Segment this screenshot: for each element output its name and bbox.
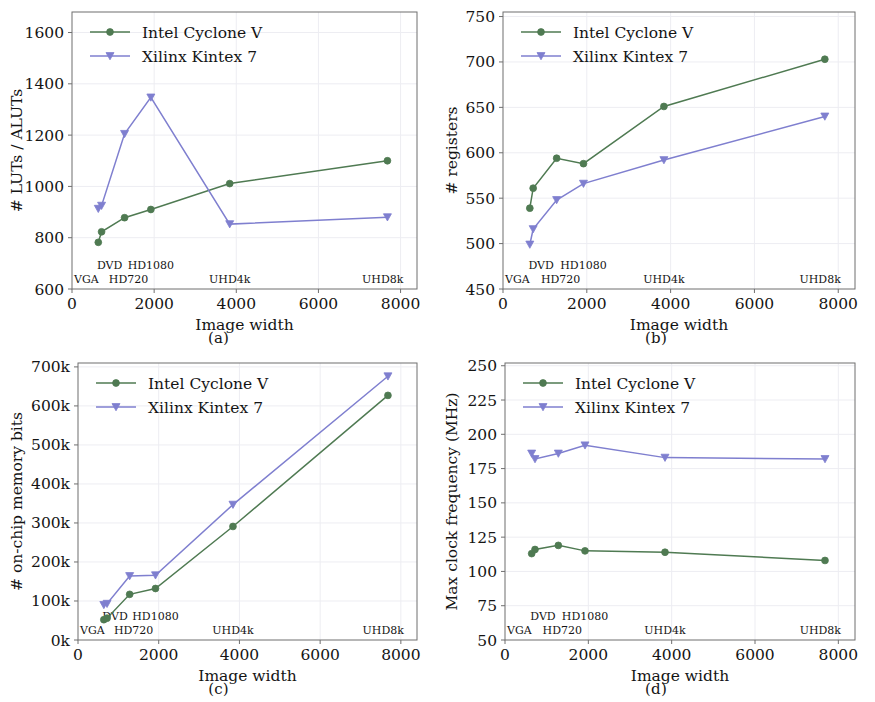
series-line-intel <box>98 161 387 243</box>
legend-label-xilinx: Xilinx Kintex 7 <box>142 48 257 66</box>
y-tick-label: 450 <box>465 281 495 299</box>
figure-grid: 600800100012001400160002000400060008000I… <box>0 0 875 702</box>
y-tick-label: 550 <box>465 190 495 208</box>
y-tick-label: 250 <box>467 357 497 375</box>
x-tick-label: 0 <box>67 295 77 313</box>
chart-b-svg: 45050055060065070075002000400060008000Im… <box>437 0 875 351</box>
data-point-marker <box>580 160 587 167</box>
y-tick-label: 750 <box>465 8 495 26</box>
data-point-marker <box>126 591 133 598</box>
series-line-intel <box>104 395 388 619</box>
chart-panel-c: 0k100k200k300k400k500k600k700k0200040006… <box>0 351 437 702</box>
legend-label-intel: Intel Cyclone V <box>142 24 263 42</box>
legend-label-xilinx: Xilinx Kintex 7 <box>148 399 263 417</box>
data-point-marker <box>662 549 669 556</box>
y-tick-label: 400k <box>31 475 71 493</box>
x-tick-label: 4000 <box>217 295 256 313</box>
resolution-annotation-hd720: HD720 <box>109 273 148 286</box>
legend-label-xilinx: Xilinx Kintex 7 <box>575 399 690 417</box>
x-tick-label: 2000 <box>139 646 178 664</box>
resolution-annotation-dvd: DVD <box>528 259 554 272</box>
resolution-annotation-hd1080: HD1080 <box>560 259 606 272</box>
resolution-annotation-uhd8k: UHD8k <box>363 624 405 637</box>
y-tick-label: 75 <box>477 597 497 615</box>
legend-label-intel: Intel Cyclone V <box>148 375 269 393</box>
data-point-marker <box>822 557 829 564</box>
y-tick-label: 150 <box>467 494 497 512</box>
y-tick-label: 600 <box>465 144 495 162</box>
legend-label-intel: Intel Cyclone V <box>573 24 694 42</box>
series-line-xilinx <box>98 97 387 224</box>
y-tick-label: 600 <box>34 281 64 299</box>
resolution-annotation-uhd4k: UHD4k <box>644 624 686 637</box>
data-point-marker <box>230 523 237 530</box>
x-tick-label: 6000 <box>300 646 339 664</box>
chart-a-svg: 600800100012001400160002000400060008000I… <box>0 0 437 351</box>
data-point-marker <box>121 214 128 221</box>
data-point-marker <box>385 392 392 399</box>
y-tick-label: 300k <box>31 514 71 532</box>
resolution-annotation-uhd4k: UHD4k <box>212 624 254 637</box>
x-tick-label: 0 <box>500 646 510 664</box>
y-tick-label: 700 <box>465 53 495 71</box>
y-tick-label: 100k <box>31 592 71 610</box>
y-tick-label: 1200 <box>25 127 64 145</box>
x-tick-label: 2000 <box>569 646 608 664</box>
legend-label-xilinx: Xilinx Kintex 7 <box>573 48 688 66</box>
y-tick-label: 700k <box>31 358 71 376</box>
y-tick-label: 650 <box>465 99 495 117</box>
x-tick-label: 8000 <box>381 295 420 313</box>
resolution-annotation-hd1080: HD1080 <box>562 610 608 623</box>
data-point-marker <box>579 180 587 187</box>
series-line-xilinx <box>530 116 825 244</box>
x-tick-label: 4000 <box>651 295 690 313</box>
data-point-marker <box>226 180 233 187</box>
y-tick-label: 50 <box>477 632 497 650</box>
legend-marker-intel <box>540 380 547 387</box>
y-tick-label: 0k <box>51 632 71 650</box>
chart-panel-b: 45050055060065070075002000400060008000Im… <box>437 0 875 351</box>
y-tick-label: 800 <box>34 229 64 247</box>
data-point-marker <box>532 546 539 553</box>
resolution-annotation-dvd: DVD <box>530 610 556 623</box>
subfigure-caption-a: (a) <box>0 329 437 347</box>
series-line-intel <box>530 59 825 208</box>
y-tick-label: 600k <box>31 397 71 415</box>
series-line-intel <box>532 545 825 560</box>
y-tick-label: 100 <box>467 563 497 581</box>
chart-c-svg: 0k100k200k300k400k500k600k700k0200040006… <box>0 351 437 702</box>
resolution-annotation-uhd8k: UHD8k <box>362 273 404 286</box>
y-tick-label: 225 <box>467 392 497 410</box>
data-point-marker <box>531 456 539 463</box>
resolution-annotation-uhd8k: UHD8k <box>799 273 841 286</box>
resolution-annotation-uhd4k: UHD4k <box>643 273 685 286</box>
y-axis-title: # LUTs / ALUTs <box>8 89 26 213</box>
data-point-marker <box>530 185 537 192</box>
x-tick-label: 8000 <box>819 295 858 313</box>
data-point-marker <box>582 547 589 554</box>
y-tick-label: 500 <box>465 235 495 253</box>
x-tick-label: 4000 <box>220 646 259 664</box>
resolution-annotation-hd720: HD720 <box>543 624 582 637</box>
resolution-annotation-hd1080: HD1080 <box>128 259 174 272</box>
resolution-annotation-hd1080: HD1080 <box>132 610 178 623</box>
x-tick-label: 8000 <box>819 646 858 664</box>
y-tick-label: 1000 <box>25 178 64 196</box>
chart-d-svg: 5075100125150175200225250020004000600080… <box>437 351 875 702</box>
legend-marker-intel <box>113 380 120 387</box>
data-point-marker <box>104 615 111 622</box>
y-axis-title: Max clock frequency (MHz) <box>443 392 461 610</box>
data-point-marker <box>555 542 562 549</box>
y-axis-title: # on-chip memory bits <box>8 412 26 591</box>
resolution-annotation-vga: VGA <box>73 273 100 286</box>
data-point-marker <box>384 157 391 164</box>
data-point-marker <box>98 228 105 235</box>
data-point-marker <box>147 206 154 213</box>
y-tick-label: 200 <box>467 426 497 444</box>
resolution-annotation-uhd8k: UHD8k <box>800 624 842 637</box>
resolution-annotation-dvd: DVD <box>97 259 123 272</box>
x-tick-label: 0 <box>73 646 83 664</box>
y-tick-label: 1600 <box>25 24 64 42</box>
data-point-marker <box>529 226 537 233</box>
x-tick-label: 0 <box>498 295 508 313</box>
